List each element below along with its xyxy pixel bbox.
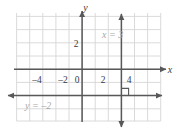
- x-tick-label-4: 4: [127, 75, 132, 85]
- equation-label-x-equals-3: x = 3: [101, 29, 123, 40]
- graph-canvas: x y –4 –2 0 2 4 2 x = 3 y = –2: [0, 0, 183, 134]
- x-tick-label-0: 0: [75, 75, 80, 85]
- x-tick-label--2: –2: [57, 75, 68, 85]
- figure-background: [0, 0, 183, 134]
- x-tick-label--4: –4: [31, 75, 42, 85]
- x-tick-label-2: 2: [101, 75, 106, 85]
- coordinate-plane-figure: x y –4 –2 0 2 4 2 x = 3 y = –2: [0, 0, 183, 134]
- y-axis-label: y: [82, 2, 88, 13]
- x-axis-label: x: [167, 64, 173, 75]
- y-tick-label-2: 2: [74, 39, 79, 49]
- equation-label-y-equals-minus-2: y = –2: [24, 100, 51, 111]
